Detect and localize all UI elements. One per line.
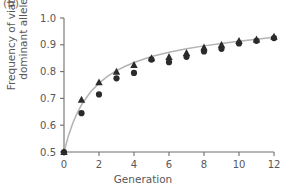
x-tick-label: 2 [96,159,102,170]
x-tick-label: 12 [268,159,281,170]
x-axis: 024681012 [61,152,281,170]
data-point-circle [131,70,137,76]
x-tick-group: 024681012 [61,152,281,170]
y-tick-label: 1.0 [40,13,56,24]
data-point-circle [78,110,84,116]
data-point-triangle [270,33,277,40]
x-tick-label: 10 [233,159,246,170]
data-point-circle [166,59,172,65]
data-markers [60,33,277,155]
y-tick-label: 0.8 [40,66,56,77]
x-tick-label: 4 [131,159,137,170]
x-tick-label: 6 [166,159,172,170]
y-tick-group: 0.50.60.70.80.91.0 [40,13,64,158]
data-point-circle [113,75,119,81]
y-tick-label: 0.5 [40,147,56,158]
data-point-circle [96,91,102,97]
y-tick-label: 0.7 [40,93,56,104]
y-tick-label: 0.9 [40,39,56,50]
x-tick-label: 0 [61,159,67,170]
scatter-plot: 0.50.60.70.80.91.0 024681012 [0,0,286,190]
y-tick-label: 0.6 [40,120,56,131]
data-point-triangle [78,96,85,103]
x-tick-label: 8 [201,159,207,170]
data-point-triangle [165,53,172,60]
y-axis: 0.50.60.70.80.91.0 [40,13,64,158]
